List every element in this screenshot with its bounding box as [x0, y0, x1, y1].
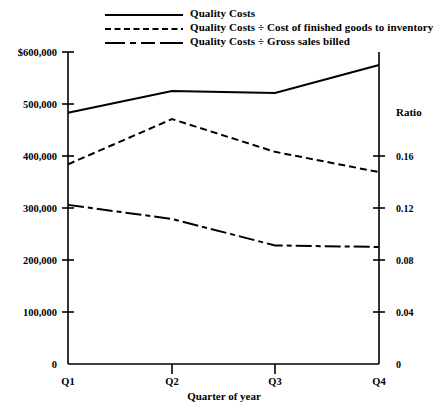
y-axis-left-label-300000: 300,000 — [23, 203, 57, 214]
y-axis-right-label-012: 0.12 — [396, 203, 414, 214]
y-axis-left-label-100000: 100,000 — [23, 307, 57, 318]
y-axis-left-label-0: 0 — [52, 359, 57, 370]
chart-container: Quality Costs Quality Costs ÷ Cost of fi… — [0, 0, 436, 406]
y-axis-right-label-0: 0 — [396, 359, 401, 370]
x-axis-ticks — [172, 364, 275, 374]
series-line-gross-sales-billed — [68, 205, 379, 247]
plot-area: $600,000 500,000 400,000 300,000 200,000… — [0, 0, 436, 406]
x-axis-label-q2: Q2 — [165, 376, 178, 387]
y-axis-right-label-004: 0.04 — [396, 307, 414, 318]
y-axis-left-label-500000: 500,000 — [23, 99, 57, 110]
series-line-quality-costs — [68, 65, 379, 113]
y-axis-right-title: Ratio — [396, 106, 422, 118]
x-axis-label-q3: Q3 — [268, 376, 281, 387]
x-axis-title: Quarter of year — [187, 390, 261, 402]
y-axis-right-label-016: 0.16 — [396, 151, 414, 162]
y-axis-left-label-200000: 200,000 — [23, 255, 57, 266]
y-axis-left-label-600000: $600,000 — [18, 47, 57, 58]
x-axis-label-q1: Q1 — [61, 376, 74, 387]
x-axis-label-q4: Q4 — [372, 376, 386, 387]
series-line-cost-of-finished-goods — [68, 119, 379, 172]
y-axis-left-label-400000: 400,000 — [23, 151, 57, 162]
y-axis-right-label-008: 0.08 — [396, 255, 414, 266]
